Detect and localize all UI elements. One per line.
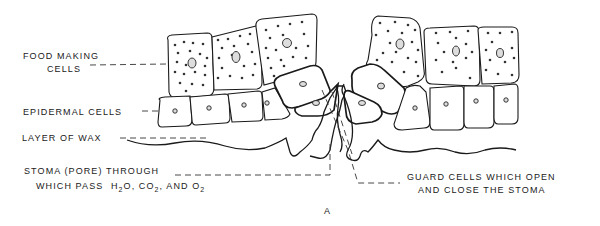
label-stoma-line2: WHICH PASS H2O, CO2, AND O2 [36, 181, 205, 193]
figure-label: A [324, 206, 331, 216]
label-guard-cells-line1: GUARD CELLS WHICH OPEN [407, 172, 556, 182]
epidermal-cells-right [394, 84, 518, 130]
label-layer-of-wax: LAYER OF WAX [22, 133, 102, 143]
label-food-making-cells: CELLS [47, 64, 81, 74]
stoma-diagram: FOOD MAKING CELLS EPIDERMAL CELLS LAYER … [0, 0, 600, 226]
label-stoma-line1: STOMA (PORE) THROUGH [24, 166, 159, 176]
label-food-making: FOOD MAKING [23, 51, 99, 61]
label-epidermal-cells: EPIDERMAL CELLS [23, 107, 122, 117]
label-guard-cells-line2: AND CLOSE THE STOMA [418, 185, 546, 195]
